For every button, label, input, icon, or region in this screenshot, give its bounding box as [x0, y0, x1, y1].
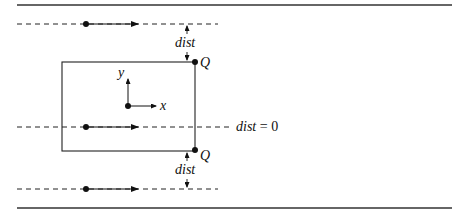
dist-label-top: dist [175, 35, 196, 50]
dist-label-bottom: dist [175, 162, 196, 177]
local-axes [125, 79, 156, 109]
dist-zero-label: dist = 0 [236, 119, 278, 134]
x-axis-label: x [159, 98, 167, 113]
direction-arrow-bottom [83, 186, 138, 192]
q-label-top: Q [200, 55, 210, 70]
direction-arrow-middle [83, 124, 138, 130]
q-point-top [192, 59, 198, 65]
y-axis-label: y [116, 65, 125, 80]
direction-arrow-top [83, 21, 138, 27]
diagram-canvas: y x Q Q dist dist dist = 0 [0, 0, 452, 215]
q-label-bottom: Q [200, 148, 210, 163]
q-point-bottom [192, 147, 198, 153]
